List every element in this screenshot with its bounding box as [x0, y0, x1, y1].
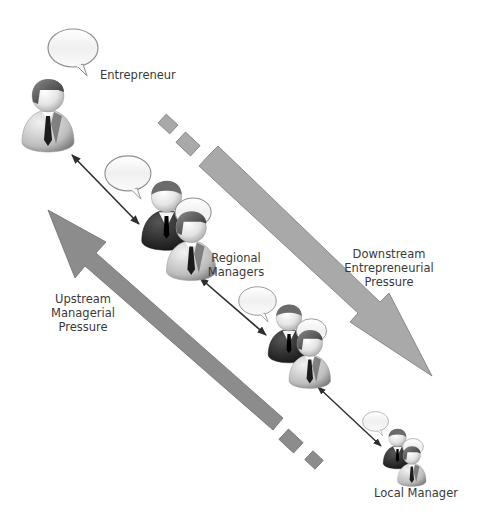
dash-square — [305, 451, 323, 469]
dash-square — [176, 132, 200, 156]
speech-bubble-icon — [48, 29, 98, 76]
managers-pair-icon — [268, 304, 330, 388]
upstream-label-line3: Pressure — [58, 320, 107, 334]
managers-pair-icon — [142, 181, 216, 281]
dash-square — [279, 429, 303, 453]
regional-managers-label-line1: Regional — [211, 251, 261, 265]
diagram-canvas: Entrepreneur Regional Managers Local Man… — [0, 0, 478, 523]
managers-pair-icon — [383, 429, 426, 487]
downstream-label-line2: Entrepreneurial — [344, 261, 433, 275]
entrepreneur-label: Entrepreneur — [100, 68, 176, 82]
upstream-label-line1: Upstream — [55, 292, 111, 306]
businessman-icon — [22, 79, 74, 152]
regional-managers-label-line2: Managers — [208, 265, 264, 279]
upstream-label-line2: Managerial — [51, 306, 115, 320]
local-manager-label: Local Manager — [374, 486, 458, 500]
downstream-label-line1: Downstream — [353, 247, 426, 261]
local-manager-group — [363, 412, 427, 487]
entrepreneur-figure — [22, 29, 98, 152]
regional-managers-group-2 — [239, 287, 331, 389]
regional-managers-group-1 — [105, 156, 216, 281]
downstream-label-line3: Pressure — [364, 275, 413, 289]
dash-square — [158, 114, 178, 134]
speech-bubble-icon — [105, 156, 151, 199]
